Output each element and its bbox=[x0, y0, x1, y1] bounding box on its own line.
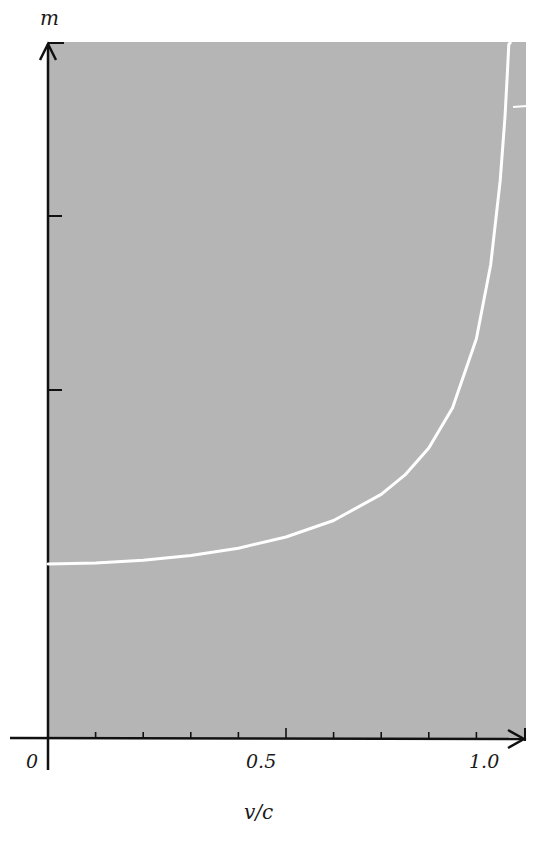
x-axis bbox=[10, 738, 524, 739]
white-tick-mark bbox=[513, 106, 527, 107]
x-tick-label-origin: 0 bbox=[26, 750, 38, 772]
x-axis-label: v/c bbox=[244, 800, 273, 824]
plot-area bbox=[49, 42, 526, 738]
x-tick-label-end: 1.0 bbox=[469, 750, 499, 772]
y-axis-label: m bbox=[40, 6, 59, 30]
relativistic-mass-chart bbox=[0, 0, 560, 842]
curve-top-extension bbox=[509, 42, 511, 44]
x-tick-label-mid: 0.5 bbox=[246, 750, 276, 772]
